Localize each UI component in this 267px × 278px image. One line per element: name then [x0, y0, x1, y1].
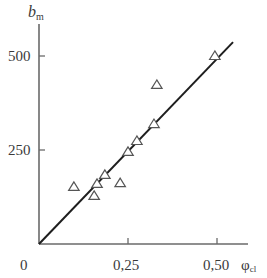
y-tick-label-500: 500	[8, 49, 31, 64]
triangle-marker	[115, 178, 126, 187]
x-axis-label-sub: cl	[250, 264, 257, 274]
y-axis-label-sub: m	[36, 11, 44, 22]
y-axis-label-main: b	[28, 3, 36, 20]
x-axis-label-main: φ	[241, 257, 250, 273]
chart-canvas	[0, 0, 267, 278]
triangle-marker	[69, 182, 80, 191]
triangle-marker	[89, 191, 100, 200]
triangle-marker	[152, 80, 163, 89]
x-tick-label-050: 0,50	[203, 258, 229, 273]
y-tick-label-250: 250	[8, 143, 31, 158]
x-axis-label: φcl	[241, 258, 256, 274]
x-tick-label-025: 0,25	[113, 258, 139, 273]
data-points	[69, 51, 220, 199]
triangle-marker	[210, 51, 221, 60]
y-axis-label: bm	[28, 4, 44, 22]
origin-label: 0	[20, 258, 28, 273]
